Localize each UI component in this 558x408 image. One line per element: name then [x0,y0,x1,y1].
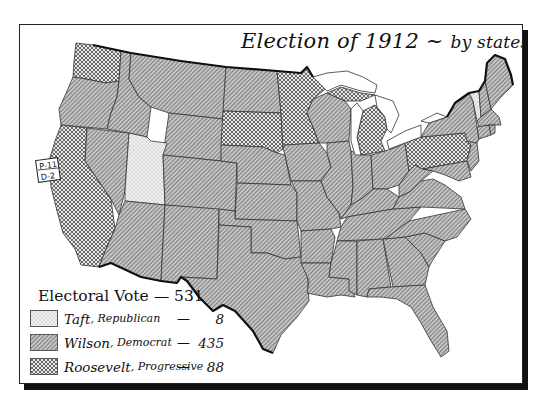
legend-total: 531 [174,287,204,305]
state-wyoming [163,113,223,161]
wilson-swatch-icon [30,334,58,351]
legend-candidate-taft: Taft [64,311,90,327]
legend-votes-taft: 8 [194,311,224,327]
state-utah [125,133,167,205]
legend: Electoral Vote — 531 Taft, Republican — … [30,287,230,377]
map-frame: P-11 D-2 Election of 1912 ~ by states El… [19,24,523,384]
title-main: Election of 1912 [241,29,419,53]
comma: , [131,360,138,373]
state-colorado [163,155,237,211]
legend-dash: — [177,359,190,374]
legend-candidate-roosevelt: Roosevelt [64,359,131,375]
legend-title-dash: — [154,287,170,305]
state-connecticut [477,125,491,139]
roosevelt-swatch-icon [30,358,58,375]
legend-row-taft: Taft, Republican — 8 [30,308,230,329]
legend-votes-wilson: 435 [194,335,224,351]
state-arkansas [301,229,335,263]
state-new-mexico [161,205,219,283]
legend-party-taft: Republican [97,312,160,325]
california-split-label: P-11 D-2 [36,158,61,183]
title-sub: by states [451,32,523,52]
state-iowa [283,143,331,181]
state-kansas [235,183,297,221]
title-dash: ~ [426,29,444,53]
legend-votes-roosevelt: 88 [194,359,224,375]
legend-row-wilson: Wilson, Democrat — 435 [30,332,230,353]
legend-candidate-wilson: Wilson [64,335,110,351]
state-florida [367,285,449,357]
legend-party-wilson: Democrat [117,336,172,349]
legend-row-roosevelt: Roosevelt, Progressive — 88 [30,356,230,377]
state-north-dakota [223,67,281,113]
state-maine [485,55,513,109]
legend-title-text: Electoral Vote [38,287,149,305]
taft-swatch-icon [30,310,58,327]
comma: , [110,336,117,349]
legend-dash: — [177,311,190,326]
legend-dash: — [177,335,190,350]
legend-title: Electoral Vote — 531 [38,287,230,305]
map-title: Election of 1912 ~ by states [241,29,523,53]
